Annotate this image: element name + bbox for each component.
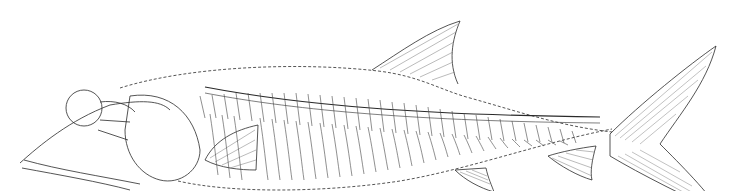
skull (20, 102, 170, 163)
anal-fin (548, 146, 596, 180)
opercle (125, 95, 200, 181)
vertebral-column (205, 87, 600, 117)
eye-orbit (66, 90, 102, 126)
fish-illustration (0, 0, 731, 191)
ribs (210, 114, 568, 180)
caudal-fin (610, 46, 720, 191)
pelvic-fin (455, 168, 494, 191)
body-outline-ventral-line (178, 129, 612, 190)
fish-drawing (0, 0, 731, 191)
pectoral-fin (205, 125, 258, 170)
neural-spines (200, 93, 576, 143)
